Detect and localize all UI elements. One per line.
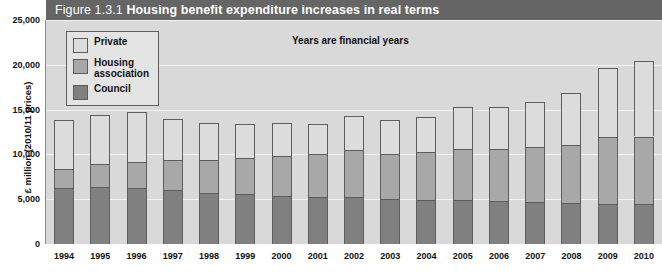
legend-swatch-council bbox=[73, 85, 88, 100]
bar-segment[interactable] bbox=[634, 204, 654, 244]
legend-item-council[interactable]: Council bbox=[73, 84, 149, 100]
bar-segment[interactable] bbox=[380, 199, 400, 244]
bar-segment[interactable] bbox=[54, 120, 74, 168]
bar-segment[interactable] bbox=[561, 93, 581, 145]
x-axis-tick-label: 1999 bbox=[235, 251, 255, 261]
bar-segment[interactable] bbox=[525, 102, 545, 148]
bar-segment[interactable] bbox=[272, 123, 292, 156]
bar-segment[interactable] bbox=[453, 107, 473, 149]
y-axis-tick-label: 10,000 bbox=[12, 149, 40, 159]
bar-segment[interactable] bbox=[272, 196, 292, 244]
bar-segment[interactable] bbox=[163, 160, 183, 190]
bar-segment[interactable] bbox=[235, 194, 255, 244]
bar-segment[interactable] bbox=[344, 150, 364, 197]
bar-segment[interactable] bbox=[598, 68, 618, 138]
bar-group[interactable] bbox=[453, 20, 473, 244]
plot-area: Years are financial years Private Housin… bbox=[46, 20, 662, 244]
x-axis-tick-label: 2001 bbox=[308, 251, 328, 261]
bar-segment[interactable] bbox=[525, 202, 545, 244]
bar-segment[interactable] bbox=[90, 187, 110, 244]
bar-segment[interactable] bbox=[561, 203, 581, 244]
bar-segment[interactable] bbox=[163, 190, 183, 244]
y-axis-tick-label: 0 bbox=[35, 239, 40, 249]
bar-segment[interactable] bbox=[344, 197, 364, 244]
bar-group[interactable] bbox=[235, 20, 255, 244]
legend-label-council: Council bbox=[94, 84, 131, 95]
legend-label-private: Private bbox=[94, 37, 127, 48]
y-axis-tick-label: 20,000 bbox=[12, 60, 40, 70]
bar-group[interactable] bbox=[525, 20, 545, 244]
legend-item-housing-association[interactable]: Housing association bbox=[73, 58, 149, 79]
bar-segment[interactable] bbox=[127, 162, 147, 189]
x-axis-tick-label: 2007 bbox=[525, 251, 545, 261]
bar-segment[interactable] bbox=[90, 164, 110, 186]
bar-segment[interactable] bbox=[308, 154, 328, 196]
bar-group[interactable] bbox=[344, 20, 364, 244]
bar-group[interactable] bbox=[163, 20, 183, 244]
bar-segment[interactable] bbox=[54, 188, 74, 244]
legend-swatch-housing-association bbox=[73, 59, 88, 74]
bar-segment[interactable] bbox=[453, 149, 473, 200]
x-axis-tick-label: 2009 bbox=[598, 251, 618, 261]
bar-segment[interactable] bbox=[272, 156, 292, 195]
bar-group[interactable] bbox=[380, 20, 400, 244]
y-axis-tick-label: 15,000 bbox=[12, 105, 40, 115]
bar-segment[interactable] bbox=[489, 107, 509, 149]
bar-group[interactable] bbox=[561, 20, 581, 244]
x-axis-tick-label: 2010 bbox=[634, 251, 654, 261]
bar-segment[interactable] bbox=[54, 169, 74, 188]
bar-segment[interactable] bbox=[199, 160, 219, 193]
x-axis-tick-label: 1998 bbox=[199, 251, 219, 261]
x-axis-tick-label: 1994 bbox=[54, 251, 74, 261]
bar-segment[interactable] bbox=[344, 116, 364, 150]
bar-segment[interactable] bbox=[416, 117, 436, 152]
bar-group[interactable] bbox=[489, 20, 509, 244]
y-axis-tick-label: 25,000 bbox=[12, 15, 40, 25]
bar-group[interactable] bbox=[634, 20, 654, 244]
chart-annotation: Years are financial years bbox=[292, 35, 409, 46]
x-axis-tick-label: 2002 bbox=[344, 251, 364, 261]
bar-segment[interactable] bbox=[199, 123, 219, 160]
bar-segment[interactable] bbox=[235, 124, 255, 158]
bar-segment[interactable] bbox=[127, 112, 147, 161]
bar-segment[interactable] bbox=[525, 147, 545, 202]
y-axis: £ million (2010/11 prices) 05,00010,0001… bbox=[0, 0, 46, 265]
chart-legend: Private Housing association Council bbox=[66, 31, 159, 106]
bar-segment[interactable] bbox=[416, 152, 436, 200]
bar-segment[interactable] bbox=[453, 200, 473, 244]
bar-group[interactable] bbox=[308, 20, 328, 244]
figure-headline: Housing benefit expenditure increases in… bbox=[126, 3, 439, 17]
x-axis-tick-label: 1995 bbox=[90, 251, 110, 261]
legend-label-housing-association: Housing association bbox=[94, 58, 149, 79]
bar-segment[interactable] bbox=[199, 193, 219, 244]
x-axis-tick-label: 2000 bbox=[272, 251, 292, 261]
bar-segment[interactable] bbox=[561, 145, 581, 203]
legend-swatch-private bbox=[73, 38, 88, 53]
bar-segment[interactable] bbox=[416, 200, 436, 244]
bar-segment[interactable] bbox=[634, 137, 654, 204]
bar-group[interactable] bbox=[416, 20, 436, 244]
figure-title-bar: Figure 1.3.1 Housing benefit expenditure… bbox=[46, 0, 662, 20]
bar-segment[interactable] bbox=[308, 197, 328, 244]
y-axis-tick-label: 5,000 bbox=[17, 194, 40, 204]
bar-segment[interactable] bbox=[163, 119, 183, 160]
legend-item-private[interactable]: Private bbox=[73, 37, 149, 53]
bar-group[interactable] bbox=[598, 20, 618, 244]
bar-group[interactable] bbox=[199, 20, 219, 244]
x-axis-tick-label: 2005 bbox=[453, 251, 473, 261]
bar-segment[interactable] bbox=[127, 188, 147, 244]
bar-segment[interactable] bbox=[308, 124, 328, 154]
bar-segment[interactable] bbox=[598, 137, 618, 203]
bar-segment[interactable] bbox=[598, 204, 618, 244]
bar-segment[interactable] bbox=[489, 201, 509, 244]
x-axis-tick-label: 1996 bbox=[127, 251, 147, 261]
x-axis: 1994199519961997199819992000200120022003… bbox=[46, 244, 662, 277]
bar-segment[interactable] bbox=[489, 149, 509, 201]
figure-number: Figure 1.3.1 bbox=[55, 3, 123, 17]
bar-segment[interactable] bbox=[380, 154, 400, 200]
bar-segment[interactable] bbox=[90, 115, 110, 164]
bar-group[interactable] bbox=[272, 20, 292, 244]
bar-segment[interactable] bbox=[634, 61, 654, 136]
bar-segment[interactable] bbox=[380, 120, 400, 153]
bar-segment[interactable] bbox=[235, 158, 255, 194]
